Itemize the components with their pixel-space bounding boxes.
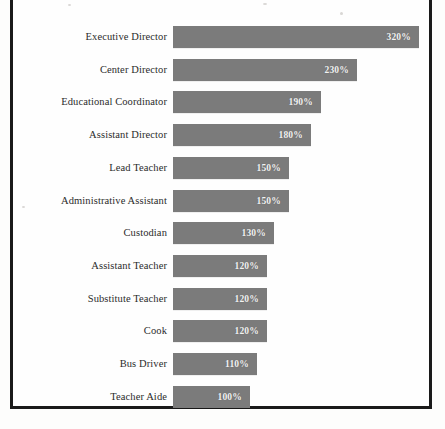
bar-container: 120% [173, 320, 267, 342]
bar-row: Educational Coordinator190% [0, 91, 445, 113]
bar: 190% [173, 91, 321, 113]
category-label: Administrative Assistant [0, 190, 167, 212]
bar-value-label: 120% [234, 255, 259, 277]
bar-row: Assistant Teacher120% [0, 255, 445, 277]
bar-row: Cook120% [0, 320, 445, 342]
bar-value-label: 180% [278, 124, 303, 146]
bar: 150% [173, 190, 289, 212]
bar-container: 120% [173, 255, 267, 277]
bar: 110% [173, 353, 257, 375]
category-label: Assistant Director [0, 124, 167, 146]
bar-row: Assistant Director180% [0, 124, 445, 146]
bar-container: 150% [173, 190, 289, 212]
bar: 120% [173, 255, 267, 277]
bar-container: 130% [173, 222, 274, 244]
category-label: Executive Director [0, 26, 167, 48]
bar-value-label: 130% [241, 222, 266, 244]
category-label: Lead Teacher [0, 157, 167, 179]
bar-value-label: 110% [225, 353, 249, 375]
category-label: Custodian [0, 222, 167, 244]
bar-value-label: 120% [234, 288, 259, 310]
bar-row: Center Director230% [0, 59, 445, 81]
bar: 120% [173, 288, 267, 310]
bar-value-label: 150% [256, 190, 281, 212]
bar-container: 110% [173, 353, 257, 375]
bar-row: Custodian130% [0, 222, 445, 244]
bar-value-label: 320% [386, 26, 411, 48]
category-label: Teacher Aide [0, 386, 167, 408]
bar-row: Lead Teacher150% [0, 157, 445, 179]
category-label: Assistant Teacher [0, 255, 167, 277]
horizontal-bar-chart: Executive Director320%Center Director230… [0, 0, 445, 429]
category-label: Educational Coordinator [0, 91, 167, 113]
bar-value-label: 100% [217, 386, 242, 408]
bar: 120% [173, 320, 267, 342]
scan-speckle [340, 12, 343, 15]
bar: 150% [173, 157, 289, 179]
bar-value-label: 230% [324, 59, 349, 81]
bar-row: Executive Director320% [0, 26, 445, 48]
bar: 100% [173, 386, 250, 408]
category-label: Substitute Teacher [0, 288, 167, 310]
bar-row: Bus Driver110% [0, 353, 445, 375]
bar-container: 230% [173, 59, 357, 81]
bar-container: 180% [173, 124, 311, 146]
scan-speckle [263, 3, 267, 5]
category-label: Bus Driver [0, 353, 167, 375]
scan-speckle [22, 206, 25, 208]
bar-row: Administrative Assistant150% [0, 190, 445, 212]
bar-value-label: 150% [256, 157, 281, 179]
bar: 180% [173, 124, 311, 146]
bar-value-label: 190% [288, 91, 313, 113]
category-label: Cook [0, 320, 167, 342]
bar-container: 100% [173, 386, 250, 408]
bar: 230% [173, 59, 357, 81]
bar-container: 120% [173, 288, 267, 310]
scan-speckle [68, 4, 71, 6]
scanned-page: Executive Director320%Center Director230… [0, 0, 445, 429]
category-label: Center Director [0, 59, 167, 81]
bar: 320% [173, 26, 419, 48]
bar-container: 190% [173, 91, 321, 113]
bar: 130% [173, 222, 274, 244]
bar-container: 320% [173, 26, 419, 48]
bar-row: Teacher Aide100% [0, 386, 445, 408]
bar-value-label: 120% [234, 320, 259, 342]
bar-row: Substitute Teacher120% [0, 288, 445, 310]
bar-container: 150% [173, 157, 289, 179]
